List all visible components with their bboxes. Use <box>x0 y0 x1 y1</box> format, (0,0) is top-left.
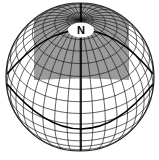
globe-diagram: N <box>0 0 159 160</box>
pole-label-n: N <box>77 24 85 36</box>
north-pole-marker: N <box>68 23 94 38</box>
globe-svg: N <box>0 0 159 160</box>
